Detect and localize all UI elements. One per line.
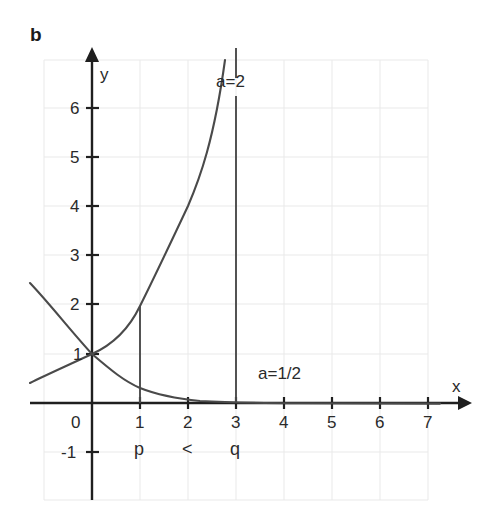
x-tick-label-2: 2 bbox=[183, 414, 192, 431]
p-marker-label: p bbox=[134, 440, 144, 458]
y-tick-label-5: 5 bbox=[70, 149, 79, 166]
y-tick-label-3: 3 bbox=[70, 247, 79, 264]
x-tick-label-5: 5 bbox=[327, 414, 336, 431]
y-axis-label: y bbox=[100, 66, 109, 83]
comparison-operator: < bbox=[182, 440, 193, 458]
q-marker-label: q bbox=[230, 440, 240, 458]
x-tick-label-1: 1 bbox=[135, 414, 144, 431]
x-axis-label: x bbox=[452, 378, 461, 395]
curve-label-a-equals-one-half: a=1/2 bbox=[258, 365, 301, 382]
y-tick-label-1: 1 bbox=[73, 346, 82, 363]
y-tick-label-4: 4 bbox=[70, 198, 79, 215]
x-tick-label-6: 6 bbox=[375, 414, 384, 431]
curve-label-a-equals-2: a=2 bbox=[216, 73, 245, 90]
y-tick-label-6: 6 bbox=[70, 100, 79, 117]
x-tick-label-4: 4 bbox=[279, 414, 288, 431]
figure-panel: b bbox=[0, 0, 490, 526]
y-tick-label-2: 2 bbox=[70, 296, 79, 313]
y-axis bbox=[85, 47, 99, 500]
x-tick-label-3: 3 bbox=[231, 414, 240, 431]
y-tick-label-minus-1: -1 bbox=[61, 444, 76, 461]
x-tick-label-0: 0 bbox=[71, 414, 80, 431]
x-tick-label-7: 7 bbox=[423, 414, 432, 431]
